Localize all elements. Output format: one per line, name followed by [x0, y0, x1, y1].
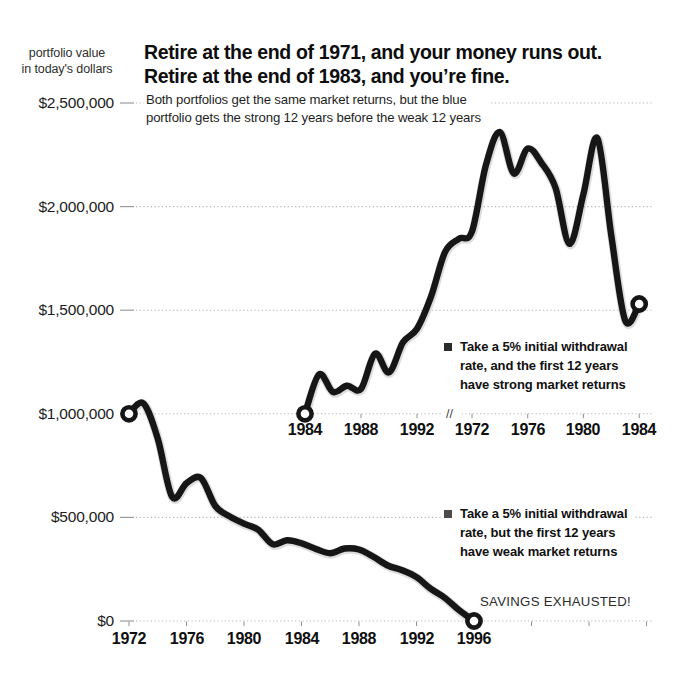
- legend-weak-bullet-icon: [444, 510, 452, 518]
- legend-strong-text: Take a 5% initial withdrawalrate, and th…: [460, 337, 627, 394]
- chart-title-line2: Retire at the end of 1983, and you’re fi…: [144, 65, 684, 89]
- legend-weak-line2: rate, but the first 12 years: [460, 523, 627, 542]
- y-axis-label-$2,500,000: $2,500,000: [0, 94, 114, 112]
- x-middle-b-label-1972: 1972: [444, 421, 500, 439]
- axis-break-mark: //: [446, 407, 453, 421]
- x-bottom-label-1976: 1976: [159, 630, 215, 648]
- x-middle-b-label-1980: 1980: [555, 421, 611, 439]
- x-bottom-label-1972: 1972: [101, 630, 157, 648]
- x-bottom-label-1984: 1984: [274, 630, 330, 648]
- chart-title: Retire at the end of 1971, and your mone…: [144, 41, 684, 88]
- legend-weak-line3: have weak market returns: [460, 542, 627, 561]
- legend-weak-returns: Take a 5% initial withdrawalrate, but th…: [441, 502, 633, 563]
- series-line-weak-first-start-marker: [122, 407, 135, 420]
- x-bottom-label-1980: 1980: [216, 630, 272, 648]
- legend-strong-line3: have strong market returns: [460, 375, 627, 394]
- x-bottom-label-1996: 1996: [446, 630, 502, 648]
- x-middle-b-label-1976: 1976: [500, 421, 556, 439]
- chart-page: // portfolio value in today's dollars Re…: [0, 0, 691, 690]
- chart-subtitle: Both portfolios get the same market retu…: [144, 90, 489, 128]
- x-bottom-label-1988: 1988: [331, 630, 387, 648]
- y-axis-label-$2,000,000: $2,000,000: [0, 198, 114, 216]
- x-middle-a-label-1988: 1988: [333, 421, 389, 439]
- series-line-strong-first-end-marker: [633, 297, 646, 310]
- y-axis-label-$1,000,000: $1,000,000: [0, 405, 114, 423]
- legend-strong-bullet-icon: [444, 343, 452, 351]
- y-axis-label-$1,500,000: $1,500,000: [0, 301, 114, 319]
- y-axis-unit-line1: portfolio value: [14, 46, 120, 62]
- x-middle-a-label-1992: 1992: [389, 421, 445, 439]
- y-axis-label-$500,000: $500,000: [0, 508, 114, 526]
- chart-subtitle-line1: Both portfolios get the same market retu…: [146, 91, 481, 109]
- savings-exhausted-annotation: SAVINGS EXHAUSTED!: [480, 594, 631, 609]
- x-middle-a-label-1984: 1984: [277, 421, 333, 439]
- series-line-strong-first-start-marker: [298, 407, 311, 420]
- series-line-weak-first-end-marker: [467, 614, 480, 627]
- y-axis-unit-label: portfolio value in today's dollars: [14, 46, 120, 77]
- chart-subtitle-line2: portfolio gets the strong 12 years befor…: [146, 109, 481, 127]
- legend-weak-line1: Take a 5% initial withdrawal: [460, 504, 627, 523]
- legend-strong-line1: Take a 5% initial withdrawal: [460, 337, 627, 356]
- y-axis-unit-line2: in today's dollars: [14, 62, 120, 78]
- chart-title-line1: Retire at the end of 1971, and your mone…: [144, 41, 684, 65]
- x-middle-b-label-1984: 1984: [611, 421, 667, 439]
- legend-strong-returns: Take a 5% initial withdrawalrate, and th…: [441, 335, 633, 396]
- y-axis-label-$0: $0: [0, 612, 114, 630]
- x-bottom-label-1992: 1992: [389, 630, 445, 648]
- legend-strong-line2: rate, and the first 12 years: [460, 356, 627, 375]
- legend-weak-text: Take a 5% initial withdrawalrate, but th…: [460, 504, 627, 561]
